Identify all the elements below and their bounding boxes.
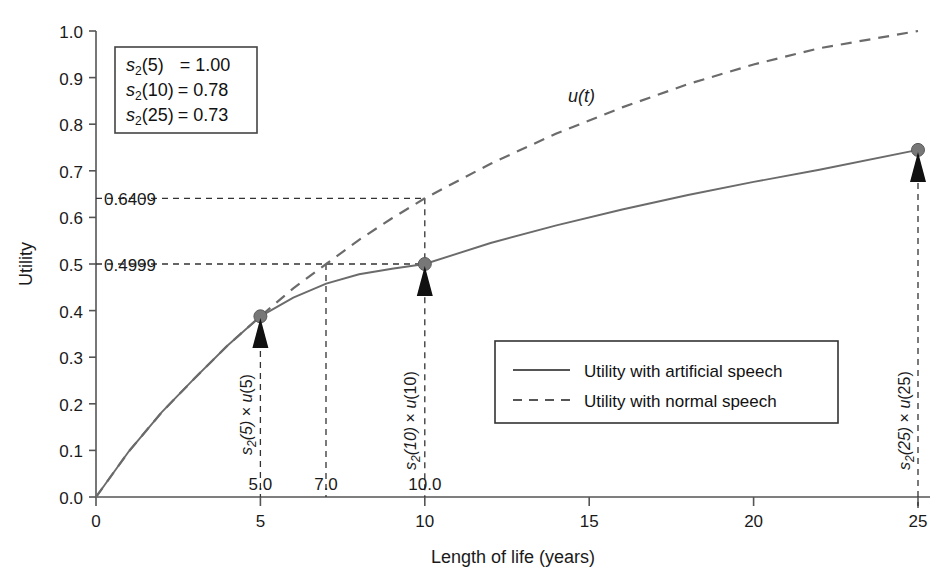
figure-container: 1.0 0.9 0.8 0.7 0.6 0.5 0.4 0.3 0.2 0.1 … [0,0,943,581]
inner-x-label-5: 5.0 [249,475,273,494]
x-tick-label-3: 15 [580,512,599,531]
x-tick-label-1: 5 [256,512,265,531]
legend-label-1: Utility with normal speech [584,392,777,411]
y-tick-label-10: 1.0 [59,23,83,42]
y-tick-label-0: 0.0 [59,489,83,508]
inner-x-label-7: 7.0 [314,475,338,494]
legend-label-0: Utility with artificial speech [584,362,782,381]
info-box-row-1: s2(10)= 0.78 [126,80,228,103]
y-tick-label-8: 0.8 [59,116,83,135]
info-box: s2(5)= 1.00 s2(10)= 0.78 s2(25)= 0.73 [115,47,257,133]
y-tick-label-6: 0.6 [59,209,83,228]
y-tick-label-5: 0.5 [59,256,83,275]
x-axis-title: Length of life (years) [431,547,595,567]
utility-line-chart: 1.0 0.9 0.8 0.7 0.6 0.5 0.4 0.3 0.2 0.1 … [0,0,943,581]
inner-x-label-10: 10.0 [408,475,441,494]
guide-label-0.6409: 0.6409 [104,190,156,209]
curve-label-ut: u(t) [568,86,595,106]
y-tick-label-2: 0.2 [59,396,83,415]
y-tick-label-4: 0.4 [59,303,83,322]
y-axis-title: Utility [16,242,36,286]
y-tick-label-3: 0.3 [59,349,83,368]
guide-label-0.4999: 0.4999 [104,256,156,275]
legend: Utility with artificial speech Utility w… [495,341,838,423]
y-tick-label-1: 0.1 [59,442,83,461]
x-tick-label-5: 25 [909,512,928,531]
x-tick-label-2: 10 [415,512,434,531]
y-tick-label-7: 0.7 [59,163,83,182]
x-tick-label-0: 0 [91,512,100,531]
info-box-row-2: s2(25)= 0.73 [126,105,228,128]
x-tick-label-4: 20 [744,512,763,531]
y-tick-label-9: 0.9 [59,70,83,89]
